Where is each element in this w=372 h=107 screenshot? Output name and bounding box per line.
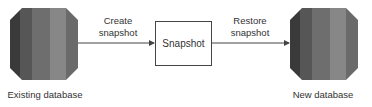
existing-database-icon (10, 8, 78, 80)
create-snapshot-label: Create snapshot (90, 15, 146, 39)
restore-snapshot-label: Restore snapshot (222, 15, 278, 39)
new-database-label: New database (283, 89, 363, 100)
existing-database-label: Existing database (0, 89, 90, 100)
snapshot-label: Snapshot (162, 38, 204, 49)
snapshot-node: Snapshot (155, 21, 212, 66)
new-database-icon (290, 8, 358, 80)
